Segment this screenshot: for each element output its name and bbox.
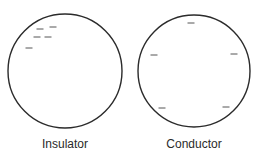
insulator-label: Insulator — [10, 137, 120, 151]
conductor-sphere — [138, 15, 250, 127]
conductor-label: Conductor — [139, 137, 249, 151]
insulator-sphere — [8, 14, 122, 128]
charge-distribution-diagram — [0, 0, 259, 156]
